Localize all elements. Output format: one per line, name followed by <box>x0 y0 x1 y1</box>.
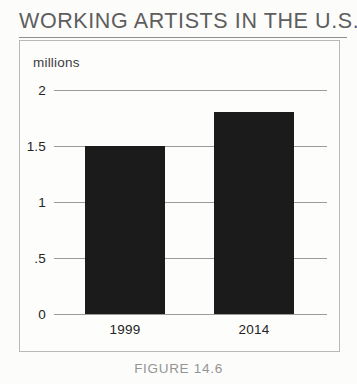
x-tick-label-1999: 1999 <box>85 322 165 337</box>
bar-2014 <box>214 112 294 314</box>
y-tick-label-0-5: .5 <box>10 251 46 266</box>
title-underline <box>19 37 347 38</box>
bar-1999 <box>85 146 165 314</box>
x-tick-label-2014: 2014 <box>214 322 294 337</box>
y-tick-label-1: 1 <box>10 195 46 210</box>
y-tick-label-1-5: 1.5 <box>10 139 46 154</box>
y-tick-label-0: 0 <box>10 307 46 322</box>
axis-line-x <box>54 314 327 315</box>
figure-container: WORKING ARTISTS IN THE U.S. millions 2 1… <box>0 0 357 384</box>
y-tick-label-2: 2 <box>10 83 46 98</box>
chart-title: WORKING ARTISTS IN THE U.S. <box>19 9 349 34</box>
y-axis-unit-label: millions <box>33 55 80 70</box>
gridline-2 <box>54 90 327 91</box>
figure-caption: FIGURE 14.6 <box>0 361 357 376</box>
